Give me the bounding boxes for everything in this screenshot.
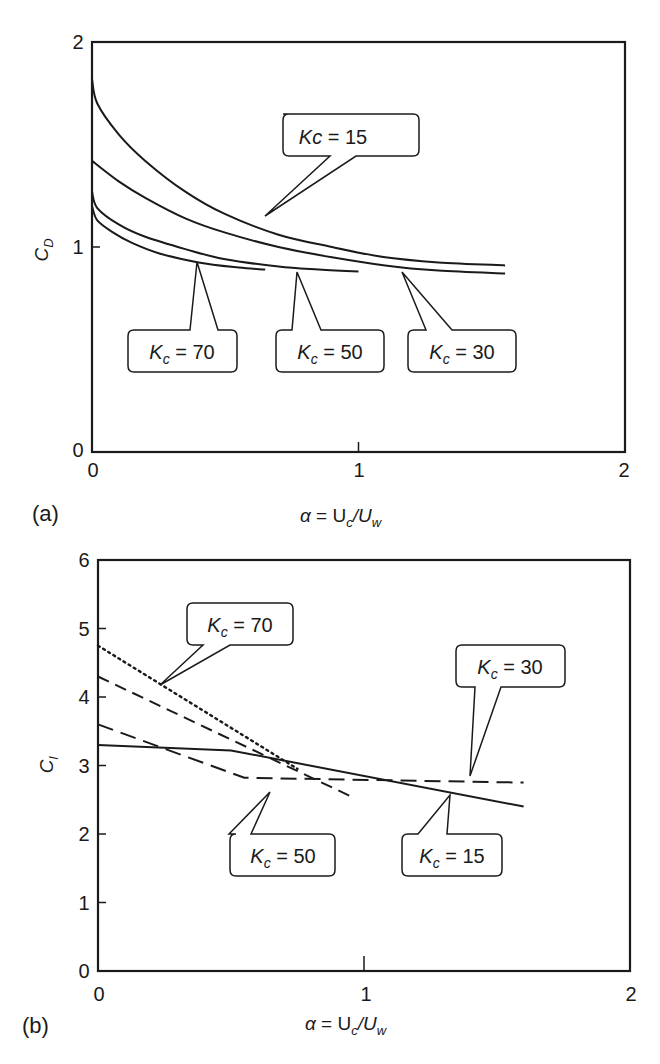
callout-b-kc15: Kc = 15 bbox=[402, 795, 502, 876]
callout-b-kc70: Kc = 70 bbox=[160, 603, 293, 685]
x-tick-label-b-1: 1 bbox=[360, 983, 371, 1005]
x-tick-label-a-2: 2 bbox=[618, 459, 629, 481]
series-line-k-c-50 bbox=[98, 677, 351, 797]
panel-label-b: (b) bbox=[22, 1013, 49, 1038]
figure: 2 1 0 0 1 2 CD α = Uc/Uw (a) Kc = 15 Kc … bbox=[0, 0, 660, 1064]
x-axis-title-a: α = Uc/Uw bbox=[300, 505, 383, 530]
series-line-kc-15 bbox=[92, 79, 505, 266]
y-tick-label-a-1: 1 bbox=[72, 236, 83, 258]
y-axis-title-a: CD bbox=[31, 238, 56, 261]
x-tick-label-a-0: 0 bbox=[87, 459, 98, 481]
x-axis-title-b: α = Uc/Uw bbox=[305, 1013, 388, 1038]
plot-frame-b bbox=[98, 560, 630, 971]
y-tick-label-b-6: 6 bbox=[78, 549, 89, 571]
y-tick-label-b-5: 5 bbox=[78, 618, 89, 640]
y-tick-label-a-0: 0 bbox=[72, 439, 83, 461]
y-tick-label-b-4: 4 bbox=[78, 686, 89, 708]
y-tick-label-a-2: 2 bbox=[72, 31, 83, 53]
x-tick-label-b-0: 0 bbox=[93, 983, 104, 1005]
x-tick-label-b-2: 2 bbox=[625, 983, 636, 1005]
chart-b: 0123456 0 1 2 Cl α = Uc/Uw (b) Kc = 70 K… bbox=[22, 549, 637, 1038]
callout-a-kc50: Kc = 50 bbox=[276, 272, 384, 372]
y-tick-label-b-0: 0 bbox=[78, 960, 89, 982]
y-tick-label-b-1: 1 bbox=[78, 892, 89, 914]
y-axis-title-b: Cl bbox=[36, 756, 61, 774]
callout-label: Kc = 15 bbox=[299, 126, 367, 148]
panel-label-a: (a) bbox=[32, 501, 59, 526]
callout-a-kc15: Kc = 15 bbox=[265, 33, 419, 216]
y-tick-label-b-2: 2 bbox=[78, 823, 89, 845]
curves-a bbox=[92, 79, 505, 274]
chart-a: 2 1 0 0 1 2 CD α = Uc/Uw (a) Kc = 15 Kc … bbox=[31, 31, 630, 530]
callout-b-kc30: Kc = 30 bbox=[456, 645, 565, 776]
callout-b-kc50: Kc = 50 bbox=[229, 792, 335, 876]
series-line-k-c-30 bbox=[92, 161, 505, 274]
y-tick-label-b-3: 3 bbox=[78, 755, 89, 777]
series-line-k-c-15 bbox=[98, 745, 524, 807]
series-line-k-c-30 bbox=[98, 724, 524, 782]
plot-frame-a bbox=[92, 42, 625, 452]
y-ticks-b: 0123456 bbox=[78, 549, 106, 982]
x-tick-label-a-1: 1 bbox=[353, 459, 364, 481]
callout-a-kc30: Kc = 30 bbox=[402, 272, 516, 372]
callout-a-kc70: Kc = 70 bbox=[128, 262, 237, 372]
